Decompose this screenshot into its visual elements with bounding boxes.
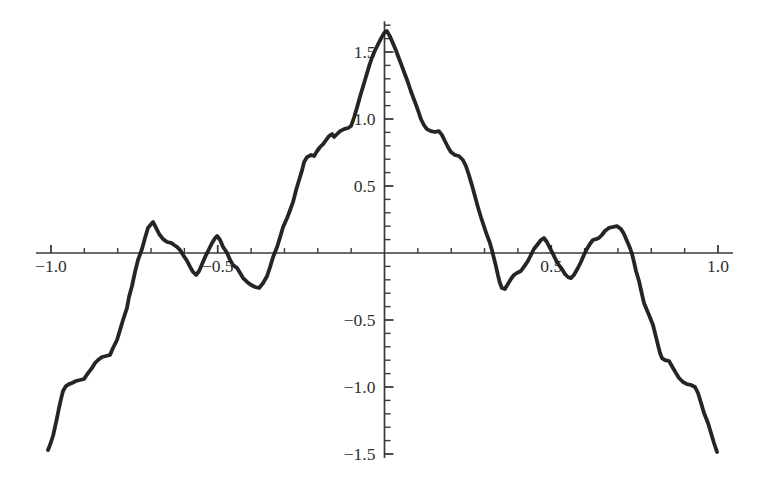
plot-figure: −1.0−0.50.51.0−1.5−1.0−0.50.51.01.5 — [0, 0, 764, 486]
x-tick-label: 1.0 — [707, 256, 729, 276]
y-tick-label: 0.5 — [354, 176, 376, 196]
x-tick-label: −1.0 — [35, 256, 67, 276]
function-curve — [48, 31, 717, 452]
plot-canvas: −1.0−0.50.51.0−1.5−1.0−0.50.51.01.5 — [0, 0, 764, 486]
y-tick-label: −0.5 — [344, 310, 376, 330]
y-tick-label: −1.0 — [344, 377, 376, 397]
y-tick-label: −1.5 — [344, 444, 376, 464]
